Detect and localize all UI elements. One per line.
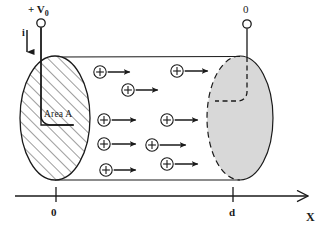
charge-carrier: [146, 139, 186, 151]
charge-carrier: [94, 66, 130, 78]
cylinder-top-line: [55, 57, 240, 58]
left-terminal-label-text: + V: [28, 3, 45, 15]
right-terminal-label: 0: [243, 4, 249, 15]
axis-label-x: X: [306, 211, 315, 223]
left-terminal-label-subscript: 0: [45, 9, 49, 18]
charge-carrier: [161, 158, 198, 170]
charge-carrier: [161, 114, 198, 126]
right-end-face: [207, 56, 273, 180]
current-flow-diagram: + V0 i 0 Area A 0 d X: [0, 0, 327, 230]
charge-carrier-layer: [94, 65, 208, 176]
axis-label-origin: 0: [51, 207, 57, 218]
charge-carrier: [122, 84, 158, 96]
charge-carrier: [98, 138, 136, 150]
area-label: Area A: [44, 110, 72, 120]
x-axis: [15, 187, 308, 202]
left-terminal-label: + V0: [28, 4, 49, 18]
current-label: i: [22, 28, 25, 38]
axis-label-distance: d: [229, 207, 235, 218]
charge-carrier: [171, 65, 208, 77]
charge-carrier: [98, 114, 136, 126]
charge-carrier: [100, 164, 136, 176]
